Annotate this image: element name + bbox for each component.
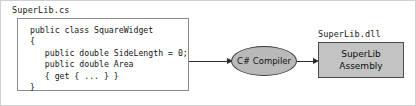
source-code-text: public class SquareWidget { public doubl… [30, 25, 188, 93]
assembly-box-line-2: Assembly [339, 60, 382, 72]
compiler-node: C# Compiler [231, 46, 297, 76]
diagram-canvas: SuperLib.cs public class SquareWidget { … [0, 0, 416, 106]
compiler-label: C# Compiler [237, 56, 291, 66]
assembly-box: SuperLib Assembly [318, 42, 404, 78]
output-file-label: SuperLib.dll [318, 29, 381, 39]
arrow-source-to-compiler-line [189, 61, 229, 62]
assembly-box-line-1: SuperLib [341, 48, 381, 60]
source-code-box: public class SquareWidget { public doubl… [17, 18, 189, 91]
source-file-label: SuperLib.cs [12, 5, 69, 15]
